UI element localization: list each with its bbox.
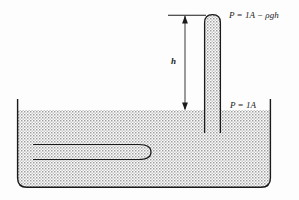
label-bottom-pressure-text: P = 1A (230, 100, 256, 110)
label-bottom-pressure: P = 1A (230, 101, 256, 110)
label-height-h: h (171, 57, 176, 66)
tank-liquid (17, 110, 271, 188)
tube-liquid (204, 14, 221, 133)
height-dimension-arrow (182, 16, 188, 111)
label-height-h-text: h (171, 56, 176, 66)
label-top-pressure-text: P = 1A − ρgh (229, 10, 279, 20)
label-top-pressure: P = 1A − ρgh (229, 11, 279, 20)
